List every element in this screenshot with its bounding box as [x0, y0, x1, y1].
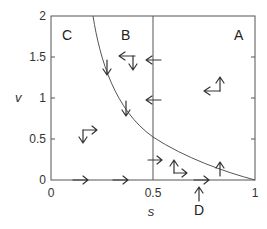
corner-arrow-right-down-icon [79, 126, 97, 143]
x-tick-0.5: 0.5 [145, 186, 162, 200]
region-label-b: B [121, 27, 130, 43]
boundary-curve [93, 16, 255, 180]
x-axis: 0 0.5 1 s [48, 186, 259, 219]
y-tick-0: 0 [39, 173, 46, 187]
y-tick-0.5: 0.5 [29, 132, 46, 146]
arrow-up-icon [216, 162, 224, 176]
x-axis-label: s [148, 204, 155, 219]
region-label-c: C [62, 27, 72, 43]
y-tick-1.5: 1.5 [29, 50, 46, 64]
corner-arrow-up-right-icon [170, 160, 187, 177]
arrow-right-icon [73, 176, 88, 184]
phase-diagram: 2 1.5 1 0.5 0 v 0 0.5 1 s C B A D [0, 0, 267, 229]
arrow-right-icon [194, 176, 209, 184]
y-tick-2: 2 [39, 9, 46, 23]
arrow-right-icon [148, 156, 162, 164]
region-label-a: A [234, 27, 244, 43]
x-tick-1: 1 [252, 186, 259, 200]
y-tick-1: 1 [39, 91, 46, 105]
y-axis-label: v [15, 90, 23, 105]
corner-arrow-left-down-icon [119, 52, 137, 70]
x-tick-0: 0 [48, 186, 55, 200]
arrow-right-icon [113, 176, 128, 184]
arrow-up-icon [195, 187, 203, 201]
region-label-d: D [194, 202, 204, 218]
corner-arrow-left-up-icon [204, 77, 224, 95]
